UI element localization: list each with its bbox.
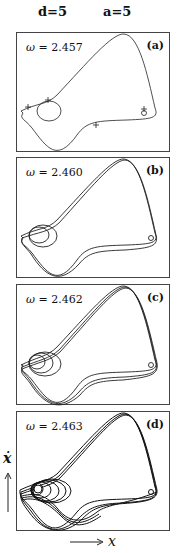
y-axis-label: ẋ xyxy=(3,450,11,466)
panel-label-b: (b) xyxy=(146,164,164,177)
panel-d: ω = 2.463 (d) xyxy=(16,411,170,531)
panel-label-d: (d) xyxy=(146,418,164,431)
y-axis-arrow-icon xyxy=(2,472,14,512)
omega-value-d: ω = 2.463 xyxy=(26,420,83,433)
x-axis-label: x xyxy=(108,533,116,549)
panel-a: ω = 2.457 (a) xyxy=(16,32,170,152)
omega-value-a: ω = 2.457 xyxy=(26,41,83,54)
panel-c: ω = 2.462 (c) xyxy=(16,284,170,405)
omega-value-c: ω = 2.462 xyxy=(26,293,83,306)
x-axis-arrow-icon xyxy=(70,536,104,548)
panel-b: ω = 2.460 (b) xyxy=(16,157,170,278)
omega-value-b: ω = 2.460 xyxy=(26,166,83,179)
panel-label-c: (c) xyxy=(147,291,164,304)
header-a-label: a=5 xyxy=(103,4,131,19)
panel-label-a: (a) xyxy=(146,39,164,52)
header-d-label: d=5 xyxy=(38,4,67,19)
cross-markers xyxy=(25,97,147,128)
